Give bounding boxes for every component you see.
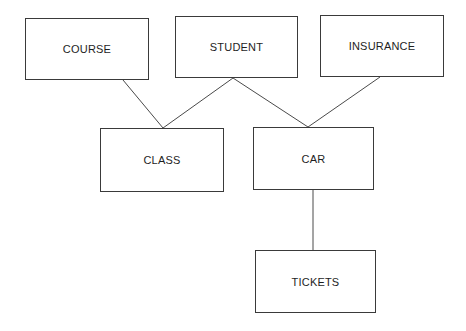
node-label-insurance: INSURANCE <box>349 40 416 52</box>
node-class: CLASS <box>100 128 224 192</box>
node-label-car: CAR <box>302 153 326 165</box>
node-label-student: STUDENT <box>210 41 263 53</box>
diagram-canvas: COURSE STUDENT INSURANCE CLASS CAR TICKE… <box>0 0 466 331</box>
edge-student-car <box>233 78 308 127</box>
node-student: STUDENT <box>175 16 298 78</box>
node-label-course: COURSE <box>63 43 111 55</box>
node-label-class: CLASS <box>143 154 180 166</box>
edge-course-class <box>123 80 163 128</box>
node-label-tickets: TICKETS <box>292 276 340 288</box>
edge-student-class <box>163 78 233 128</box>
node-course: COURSE <box>25 18 149 80</box>
edge-insurance-car <box>308 77 380 127</box>
node-insurance: INSURANCE <box>320 15 444 77</box>
node-car: CAR <box>253 127 374 190</box>
node-tickets: TICKETS <box>255 250 376 313</box>
